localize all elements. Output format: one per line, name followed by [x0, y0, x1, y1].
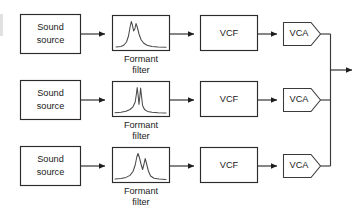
channel-row-2: Sound source Formant filter VCF VCA	[21, 81, 331, 142]
block-diagram: Sound source Formant filter VCF VCA Soun…	[0, 0, 361, 215]
vca-label-3: VCA	[290, 160, 310, 170]
vcf-label-3: VCF	[220, 160, 239, 170]
sound-source-label-1-line1: Sound	[37, 22, 64, 32]
summing-bus-group	[331, 34, 353, 166]
formant-filter-box-2[interactable]	[113, 82, 170, 117]
channel-row-3: Sound source Formant filter VCF VCA	[21, 147, 331, 208]
sound-source-label-1-line2: source	[37, 35, 65, 45]
formant-caption-1-line2: filter	[132, 65, 149, 75]
formant-caption-3-line2: filter	[132, 197, 149, 207]
formant-caption-2-line1: Formant	[124, 120, 159, 130]
channel-row-1: Sound source Formant filter VCF VCA	[21, 15, 331, 76]
sound-source-label-2-line2: source	[37, 101, 65, 111]
vcf-label-1: VCF	[220, 28, 239, 38]
sound-source-label-3-line2: source	[37, 167, 65, 177]
sound-source-label-2-line1: Sound	[37, 88, 64, 98]
sound-source-label-3-line1: Sound	[37, 154, 64, 164]
vca-label-1: VCA	[290, 28, 310, 38]
formant-caption-3-line1: Formant	[124, 186, 159, 196]
formant-caption-2-line2: filter	[132, 131, 149, 141]
formant-caption-1-line1: Formant	[124, 54, 159, 64]
vcf-label-2: VCF	[220, 94, 239, 104]
diagram-canvas: Sound source Formant filter VCF VCA Soun…	[0, 0, 361, 215]
formant-filter-box-1[interactable]	[113, 16, 170, 51]
vca-label-2: VCA	[290, 94, 310, 104]
